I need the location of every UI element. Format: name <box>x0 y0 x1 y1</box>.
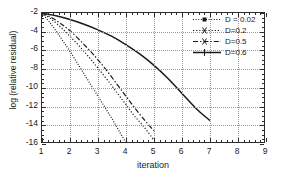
chart-figure: log (relative residual) 123456789 -2-4-6… <box>0 0 281 180</box>
y-tick-label: -14 <box>12 118 38 128</box>
legend-line-sample <box>192 47 222 58</box>
y-tick-label: -16 <box>12 137 38 147</box>
y-tick-label: -2 <box>12 6 38 16</box>
legend-line-sample <box>192 14 222 25</box>
x-axis-title: iteration <box>41 160 265 170</box>
legend-item: D=0.6 <box>192 47 278 58</box>
legend-line-sample <box>192 36 222 47</box>
legend-item: D=0.5 <box>192 36 278 47</box>
legend-label: D=0.2 <box>222 26 247 35</box>
legend-label: D = 0.02 <box>222 15 255 24</box>
legend-label: D=0.5 <box>222 37 247 46</box>
y-tick-label: -12 <box>12 100 38 110</box>
legend-item: D=0.2 <box>192 25 278 36</box>
chart-legend: D = 0.02D=0.2D=0.5D=0.6 <box>192 14 278 58</box>
legend-label: D=0.6 <box>222 48 247 57</box>
y-tick-label: -4 <box>12 25 38 35</box>
y-tick-label: -8 <box>12 62 38 72</box>
y-tick-label: -6 <box>12 43 38 53</box>
legend-line-sample <box>192 25 222 36</box>
y-tick-label: -10 <box>12 81 38 91</box>
legend-item: D = 0.02 <box>192 14 278 25</box>
